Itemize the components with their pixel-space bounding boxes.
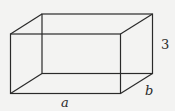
- prism-diagram: 3 b a: [0, 0, 175, 111]
- depth-label: b: [145, 83, 153, 98]
- edge-bottom-left: [11, 74, 43, 94]
- prism-edges: [11, 14, 153, 94]
- back-face: [42, 14, 153, 74]
- edge-top-right: [121, 14, 153, 34]
- edge-top-left: [11, 14, 43, 34]
- front-face: [11, 34, 121, 94]
- width-label: a: [61, 95, 69, 110]
- height-label: 3: [161, 37, 169, 52]
